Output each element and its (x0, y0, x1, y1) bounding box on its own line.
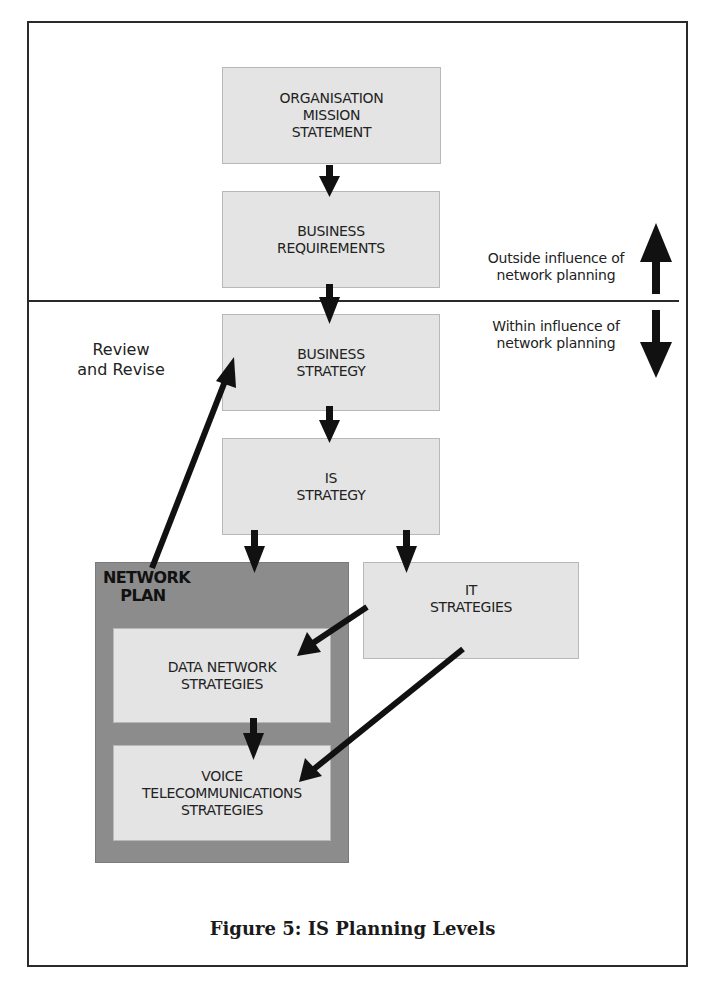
figure-caption: Figure 5: IS Planning Levels (0, 918, 705, 939)
node-label: DATA NETWORK STRATEGIES (168, 659, 277, 693)
node-it-strategies: IT STRATEGIES (363, 562, 579, 659)
node-organisation-mission-statement: ORGANISATION MISSION STATEMENT (222, 67, 441, 164)
node-label: ORGANISATION MISSION STATEMENT (280, 90, 384, 141)
outside-influence-label: Outside influence of network planning (476, 250, 636, 284)
node-label: IS STRATEGY (297, 470, 366, 504)
node-label: VOICE TELECOMMUNICATIONS STRATEGIES (142, 768, 302, 819)
influence-divider-line (27, 300, 679, 302)
review-and-revise-label: Review and Revise (66, 340, 176, 380)
node-business-strategy: BUSINESS STRATEGY (222, 314, 440, 411)
node-data-network-strategies: DATA NETWORK STRATEGIES (113, 628, 331, 723)
node-label: BUSINESS STRATEGY (297, 346, 366, 380)
within-influence-label: Within influence of network planning (476, 318, 636, 352)
node-voice-telecommunications-strategies: VOICE TELECOMMUNICATIONS STRATEGIES (113, 745, 331, 841)
network-plan-label: NETWORK PLAN (103, 569, 183, 605)
node-label: BUSINESS REQUIREMENTS (277, 223, 385, 257)
node-label: IT STRATEGIES (430, 582, 512, 616)
node-business-requirements: BUSINESS REQUIREMENTS (222, 191, 440, 288)
node-is-strategy: IS STRATEGY (222, 438, 440, 535)
